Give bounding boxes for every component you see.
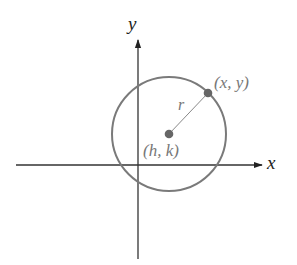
center-point-label: (h, k) <box>143 142 179 159</box>
center-point <box>165 130 174 139</box>
y-axis-label: y <box>128 14 136 33</box>
radius-segment <box>169 93 208 134</box>
diagram-canvas <box>0 0 297 265</box>
circle-point <box>204 89 213 98</box>
circle-point-label: (x, y) <box>214 74 249 91</box>
radius-label: r <box>178 97 184 113</box>
x-axis-label: x <box>267 153 275 172</box>
